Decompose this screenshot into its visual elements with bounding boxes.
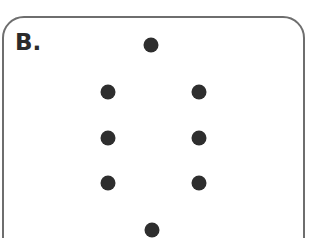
dot: [144, 38, 159, 53]
panel-label: B.: [15, 29, 41, 55]
dot: [101, 176, 116, 191]
dot: [101, 85, 116, 100]
dot: [192, 176, 207, 191]
dot: [192, 85, 207, 100]
dot: [101, 131, 116, 146]
dot: [192, 131, 207, 146]
dot: [145, 223, 160, 238]
